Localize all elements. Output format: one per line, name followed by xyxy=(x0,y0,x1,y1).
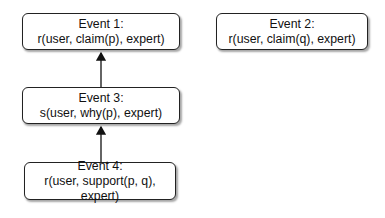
node-event1[interactable]: Event 1: r(user, claim(p), expert) xyxy=(22,13,180,50)
node-title: Event 1: xyxy=(78,17,123,32)
node-event3[interactable]: Event 3: s(user, why(p), expert) xyxy=(22,87,180,124)
node-event2[interactable]: Event 2: r(user, claim(q), expert) xyxy=(216,13,368,50)
node-event4[interactable]: Event 4: r(user, support(p, q), expert) xyxy=(24,162,176,200)
node-title: Event 3: xyxy=(78,91,123,106)
node-title: Event 4: xyxy=(77,159,122,174)
node-title: Event 2: xyxy=(269,17,314,32)
node-label: r(user, support(p, q), expert) xyxy=(25,174,175,204)
node-label: r(user, claim(p), expert) xyxy=(37,32,164,47)
node-label: r(user, claim(q), expert) xyxy=(228,32,355,47)
node-label: s(user, why(p), expert) xyxy=(40,106,162,121)
